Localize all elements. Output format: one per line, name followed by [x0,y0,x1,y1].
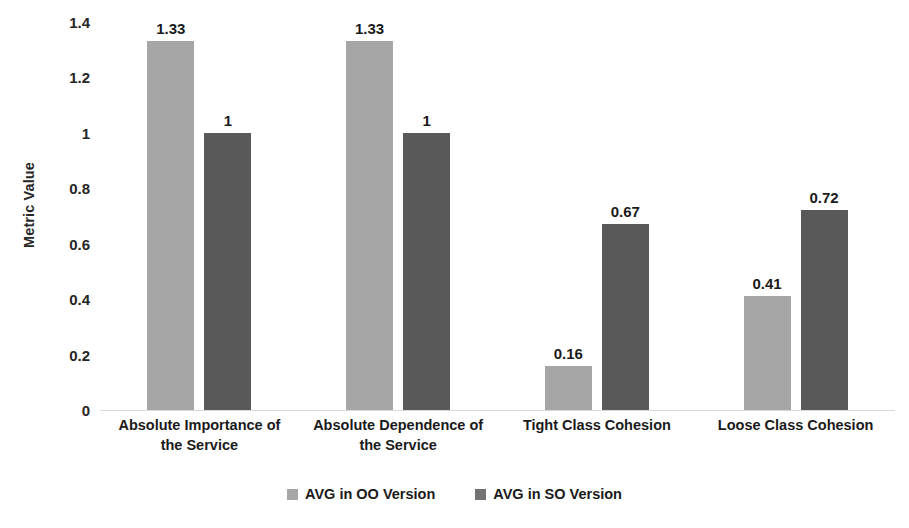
x-axis-line [100,410,895,411]
bar-chart: Metric Value 1.4 1.2 1 0.8 0.6 0.4 0.2 0… [0,0,909,528]
bar-oo [147,41,194,410]
bar-group: 1.33 1 [299,22,498,410]
legend-label: AVG in OO Version [305,486,435,502]
bar-value-label: 1 [367,112,487,129]
y-axis-title: Metric Value [6,0,52,410]
y-axis-title-text: Metric Value [21,162,37,248]
legend-label: AVG in SO Version [493,486,622,502]
legend-swatch-icon [287,489,298,500]
bar-so [403,133,450,410]
bar-group: 0.16 0.67 [498,22,697,410]
bar-slot-oo: 0.41 [744,22,791,410]
legend-item-so[interactable]: AVG in SO Version [475,486,622,502]
bar-group: 1.33 1 [100,22,299,410]
x-axis-label-line2: the Service [299,436,498,456]
bar-slot-oo: 1.33 [346,22,393,410]
bar-slot-so: 0.72 [801,22,848,410]
bar-slot-so: 1 [403,22,450,410]
bar-slot-oo: 1.33 [147,22,194,410]
bar-so [602,224,649,410]
y-axis-tick: 0.8 [69,180,90,197]
y-axis-tick-labels: 1.4 1.2 1 0.8 0.6 0.4 0.2 0 [48,0,96,420]
y-axis-tick: 0.2 [69,346,90,363]
legend-item-oo[interactable]: AVG in OO Version [287,486,435,502]
bar-slot-so: 1 [204,22,251,410]
x-axis-label-line1: Tight Class Cohesion [498,416,697,436]
bar-oo [744,296,791,410]
bar-so [801,210,848,410]
bar-value-label: 1 [168,112,288,129]
y-axis-tick: 1.4 [69,14,90,31]
y-axis-tick: 0.4 [69,291,90,308]
bar-slot-so: 0.67 [602,22,649,410]
x-axis-label-line2: the Service [100,436,299,456]
legend-swatch-icon [475,489,486,500]
bar-value-label: 0.67 [565,203,685,220]
plot-area: 1.33 1 1.33 1 0.16 0.67 [100,22,895,410]
x-axis-label: Absolute Importance of the Service [100,416,299,455]
bar-so [204,133,251,410]
x-axis-label-line1: Loose Class Cohesion [696,416,895,436]
bar-oo [545,366,592,410]
y-axis-tick: 0.6 [69,235,90,252]
x-axis-label-line1: Absolute Dependence of [299,416,498,436]
x-axis-label: Tight Class Cohesion [498,416,697,436]
bar-oo [346,41,393,410]
x-axis-category-labels: Absolute Importance of the Service Absol… [100,416,895,474]
y-axis-tick: 0 [82,402,90,419]
y-axis-tick: 1.2 [69,69,90,86]
x-axis-label-line1: Absolute Importance of [100,416,299,436]
y-axis-tick: 1 [82,124,90,141]
x-axis-label: Loose Class Cohesion [696,416,895,436]
chart-legend: AVG in OO Version AVG in SO Version [0,486,909,502]
bar-group: 0.41 0.72 [696,22,895,410]
bar-value-label: 0.72 [764,189,884,206]
x-axis-label: Absolute Dependence of the Service [299,416,498,455]
